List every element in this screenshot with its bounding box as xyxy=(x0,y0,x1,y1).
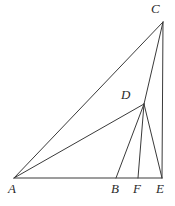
segment-group xyxy=(14,22,163,178)
segment-a-c xyxy=(14,22,163,178)
point-label-d: D xyxy=(121,88,130,101)
point-label-c: C xyxy=(151,2,160,15)
figure-canvas xyxy=(0,0,175,206)
segment-d-e xyxy=(144,104,162,178)
segment-d-f xyxy=(138,104,144,178)
segment-c-e xyxy=(162,22,163,178)
point-label-a: A xyxy=(8,182,16,195)
segment-c-d xyxy=(144,22,163,104)
segment-a-d xyxy=(14,104,144,178)
point-label-f: F xyxy=(133,182,141,195)
geometry-figure: ABFEDC xyxy=(0,0,175,206)
point-label-b: B xyxy=(111,182,119,195)
point-label-e: E xyxy=(156,182,164,195)
segment-d-b xyxy=(116,104,144,178)
